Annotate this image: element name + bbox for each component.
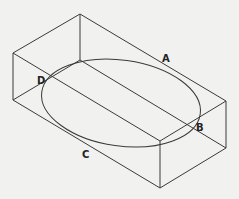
label-c: C [82, 149, 89, 160]
edge-top-diagonal [13, 53, 160, 141]
label-a: A [162, 53, 170, 64]
box-ellipse-diagram: A B C D [0, 0, 239, 199]
edge-bottom-right [160, 148, 226, 188]
edge-top-front-right [160, 101, 226, 141]
label-b: B [196, 122, 204, 133]
edge-top-back-left [13, 14, 80, 53]
elliptical-section [36, 49, 206, 156]
edge-inner-right [80, 60, 226, 148]
label-d: D [37, 75, 45, 86]
edge-bottom-left [13, 100, 160, 188]
edge-top-back-right [80, 14, 226, 101]
